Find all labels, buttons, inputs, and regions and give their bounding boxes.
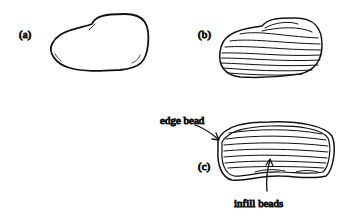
panel-b-shape [220, 18, 322, 77]
panel-c-shape [218, 122, 334, 180]
edge-bead-annotation: edge bead [160, 114, 205, 126]
edge-bead-arrow [195, 125, 219, 140]
figure-diagram: (a) (b) [0, 0, 353, 221]
infill-beads-arrow [266, 159, 273, 191]
panel-c-label: (c) [198, 160, 211, 173]
infill-beads-annotation: infill beads [234, 197, 283, 209]
panel-a-shape [51, 14, 149, 71]
panel-a-label: (a) [19, 28, 32, 41]
panel-b-label: (b) [198, 28, 211, 41]
